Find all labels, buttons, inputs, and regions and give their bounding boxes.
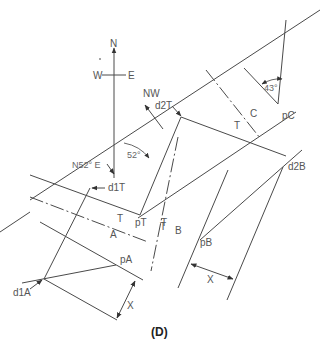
nw-label: NW [143,88,160,99]
angle-43-label: 43° [264,83,278,93]
unit-A-label: A [110,229,117,240]
unit-T-a-label: T [117,213,123,224]
west-label: W [93,70,103,81]
pB-label: pB [200,237,213,248]
strike-pointer-icon [107,164,114,174]
unit-C-label: C [250,108,257,119]
strike-line-d1T [30,175,140,215]
d2B-label: d2B [288,161,306,172]
unit-T-c-label: T [234,120,240,131]
panel-label: (D) [151,325,168,339]
contact-c-t [206,70,260,138]
dip-line-c [278,20,286,104]
pA-label: pA [120,254,133,265]
d1T-d1A-line [44,188,90,279]
unit-T-b-label: T [160,221,166,232]
compass-rose: N W E [19,38,135,178]
strike-label: N52° E [72,160,101,170]
d1A-pA-line [22,265,116,283]
d2T-pointer-icon [172,106,181,116]
unit-B-label: B [175,225,182,236]
strike-line-top [30,10,320,200]
geologic-diagram: N W E NW 52° N52° E 43° pC C T d2T d2B d… [0,0,320,354]
d1A-label: d1A [13,287,31,298]
d2T-pT-line [140,117,181,215]
d2B-pB-line [200,150,302,240]
b-left-line [178,170,228,288]
angle-52-label: 52° [127,150,141,160]
x-right-label: X [207,274,214,285]
d2T-label: d2T [155,100,172,111]
strike-line-pA [40,222,143,280]
b-right-line [227,167,283,300]
east-label: E [128,70,135,81]
pT-label: pT [135,217,147,228]
contact-t-a [30,197,148,242]
north-label: N [110,38,117,49]
pC-label: pC [282,110,295,121]
d1T-label: d1T [108,182,125,193]
x-left-label: X [127,300,134,311]
lower-strike-d1A [44,279,117,320]
